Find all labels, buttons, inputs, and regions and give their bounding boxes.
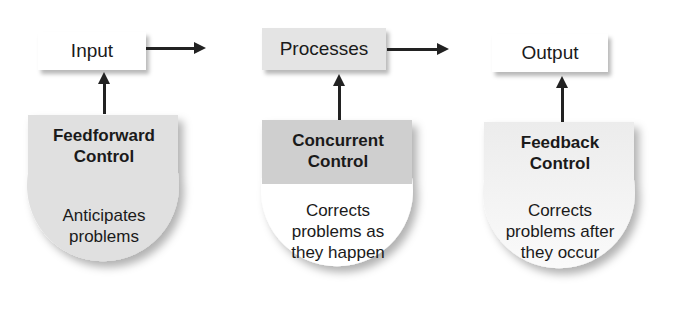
- arrow-processes-to-output: [387, 48, 439, 51]
- feedforward-control-shield: Feedforward Control Anticipates problems: [28, 115, 180, 287]
- input-box: Input: [38, 32, 146, 70]
- arrow-concurrent-to-processes: [338, 84, 341, 120]
- feedforward-title: Feedforward Control: [28, 125, 180, 167]
- concurrent-control-shield: Concurrent Control Corrects problems as …: [262, 120, 414, 292]
- feedforward-description: Anticipates problems: [28, 205, 180, 247]
- processes-box: Processes: [262, 28, 386, 70]
- arrow-input-to-processes: [146, 47, 196, 50]
- concurrent-title: Concurrent Control: [262, 130, 414, 172]
- arrow-feedforward-to-input: [103, 82, 106, 114]
- feedback-description: Corrects problems after they occur: [484, 200, 636, 263]
- processes-label: Processes: [280, 38, 369, 60]
- feedback-title: Feedback Control: [484, 132, 636, 174]
- feedback-control-shield: Feedback Control Corrects problems after…: [484, 122, 636, 294]
- output-box: Output: [492, 34, 608, 72]
- arrow-feedback-to-output: [561, 86, 564, 122]
- concurrent-description: Corrects problems as they happen: [262, 200, 414, 263]
- input-label: Input: [71, 40, 113, 62]
- output-label: Output: [521, 42, 578, 64]
